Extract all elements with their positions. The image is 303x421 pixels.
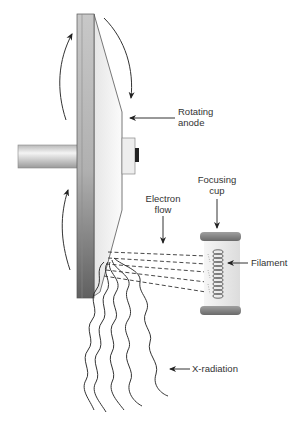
electron-beam-lines [104,252,206,292]
electron-flow-label: Electron flow [140,193,186,215]
rotating-anode-label: Rotating anode [178,106,213,128]
filament-label: Filament [251,257,287,268]
electron-flow-label-line2: flow [140,204,186,215]
focusing-cup-label-line2: cup [193,185,241,196]
rotating-anode-label-line2: anode [178,117,213,128]
x-radiation-label: X-radiation [192,363,238,374]
anode-shaft [18,145,78,168]
electron-flow-label-line1: Electron [140,193,186,204]
focusing-cup [200,232,241,315]
focusing-cup-label-line1: Focusing [193,174,241,185]
focusing-cup-label: Focusing cup [193,174,241,196]
rotating-anode-label-line1: Rotating [178,106,213,117]
rotating-anode-disk [77,14,139,298]
